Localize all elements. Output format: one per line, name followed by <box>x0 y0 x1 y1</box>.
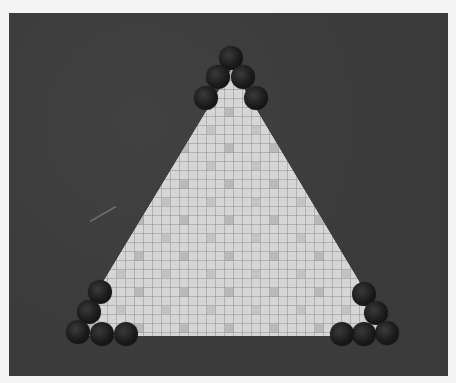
ball-piece-bottom-left-corner-5[interactable] <box>114 322 138 346</box>
ball-piece-top-corner-3[interactable] <box>231 65 255 89</box>
ball-piece-bottom-left-corner-3[interactable] <box>66 320 90 344</box>
ball-piece-bottom-right-corner-3[interactable] <box>375 321 399 345</box>
ball-piece-bottom-right-corner-5[interactable] <box>330 322 354 346</box>
ball-piece-top-corner-2[interactable] <box>206 65 230 89</box>
ball-piece-top-corner-4[interactable] <box>194 86 218 110</box>
tiled-floor <box>70 68 392 336</box>
ball-piece-top-corner-5[interactable] <box>244 86 268 110</box>
ball-piece-bottom-left-corner-4[interactable] <box>90 322 114 346</box>
ball-piece-bottom-right-corner-4[interactable] <box>352 322 376 346</box>
